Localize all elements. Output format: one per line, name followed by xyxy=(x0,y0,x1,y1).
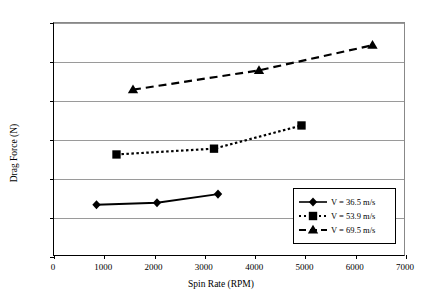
legend-diamond-swatch xyxy=(298,196,328,208)
series-line xyxy=(117,125,302,154)
square-marker xyxy=(112,150,120,158)
square-marker xyxy=(309,212,317,220)
square-marker xyxy=(297,121,305,129)
drag-force-vs-spin-rate-chart: 00.20.40.60.811.2 0100020003000400050006… xyxy=(0,0,442,305)
diamond-marker xyxy=(214,190,222,199)
triangle-marker xyxy=(367,40,377,49)
y-axis-title: Drag Force (N) xyxy=(9,93,19,213)
square-marker xyxy=(210,145,218,153)
legend-item: V = 69.5 m/s xyxy=(298,223,391,237)
x-tick-label: 0 xyxy=(51,262,56,272)
series-2 xyxy=(112,121,305,158)
legend-item: V = 36.5 m/s xyxy=(298,195,391,209)
x-tick-mark xyxy=(406,255,407,259)
x-tick-label: 2000 xyxy=(145,262,163,272)
legend-square-swatch xyxy=(298,210,328,222)
x-tick-mark xyxy=(205,255,206,259)
legend: V = 36.5 m/sV = 53.9 m/sV = 69.5 m/s xyxy=(293,188,396,244)
x-tick-mark xyxy=(305,255,306,259)
x-tick-mark xyxy=(356,255,357,259)
legend-triangle-swatch xyxy=(298,224,328,236)
series-1 xyxy=(92,190,222,210)
diamond-marker xyxy=(309,197,317,206)
series-line xyxy=(133,45,373,89)
legend-label: V = 69.5 m/s xyxy=(328,225,375,235)
diamond-marker xyxy=(153,198,161,207)
x-tick-mark xyxy=(54,255,55,259)
legend-item: V = 53.9 m/s xyxy=(298,209,391,223)
x-tick-label: 1000 xyxy=(94,262,112,272)
legend-label: V = 36.5 m/s xyxy=(328,197,375,207)
x-tick-mark xyxy=(104,255,105,259)
x-tick-label: 7000 xyxy=(396,262,414,272)
x-tick-mark xyxy=(155,255,156,259)
legend-label: V = 53.9 m/s xyxy=(328,211,375,221)
x-tick-label: 4000 xyxy=(245,262,263,272)
x-tick-label: 3000 xyxy=(195,262,213,272)
diamond-marker xyxy=(92,200,100,209)
x-tick-mark xyxy=(255,255,256,259)
x-axis-title: Spin Rate (RPM) xyxy=(0,279,442,289)
x-tick-label: 5000 xyxy=(295,262,313,272)
series-3 xyxy=(128,40,378,93)
x-tick-label: 6000 xyxy=(346,262,364,272)
